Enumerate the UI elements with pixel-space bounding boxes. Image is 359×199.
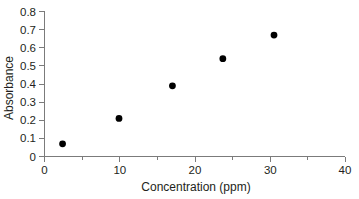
x-axis-ticks (45, 157, 346, 162)
x-axis-tick-labels: 0 10 20 30 40 (41, 164, 351, 176)
x-tick-label-30: 30 (264, 164, 277, 176)
data-point (59, 140, 66, 147)
x-tick-label-20: 20 (189, 164, 202, 176)
y-tick-label-0-8: 0.8 (20, 6, 36, 18)
y-tick-label-0-1: 0.1 (20, 132, 36, 144)
y-tick-label-0-3: 0.3 (20, 96, 36, 108)
chart-canvas: 0 0.1 0.2 0.3 0.4 0.5 0.6 0.7 0.8 0 (0, 0, 359, 199)
y-tick-label-0-2: 0.2 (20, 114, 36, 126)
y-axis-title: Absorbance (2, 56, 16, 120)
y-tick-label-0-5: 0.5 (20, 60, 36, 72)
x-tick-label-0: 0 (41, 164, 47, 176)
x-tick-label-40: 40 (339, 164, 352, 176)
figure-caption (0, 191, 359, 199)
y-axis-tick-labels: 0 0.1 0.2 0.3 0.4 0.5 0.6 0.7 0.8 (20, 6, 37, 163)
axes-group (44, 11, 345, 157)
data-point (219, 55, 226, 62)
x-tick-label-10: 10 (113, 164, 126, 176)
y-axis-ticks (39, 12, 44, 157)
data-series (59, 32, 277, 148)
data-point (271, 32, 278, 39)
y-tick-label-0-4: 0.4 (20, 78, 37, 90)
y-tick-label-0-7: 0.7 (20, 24, 36, 36)
data-point (169, 82, 176, 89)
y-tick-label-0: 0 (30, 151, 36, 163)
data-point (116, 115, 123, 122)
y-tick-label-0-6: 0.6 (20, 42, 36, 54)
scatter-chart-figure: 0 0.1 0.2 0.3 0.4 0.5 0.6 0.7 0.8 0 (0, 0, 359, 199)
